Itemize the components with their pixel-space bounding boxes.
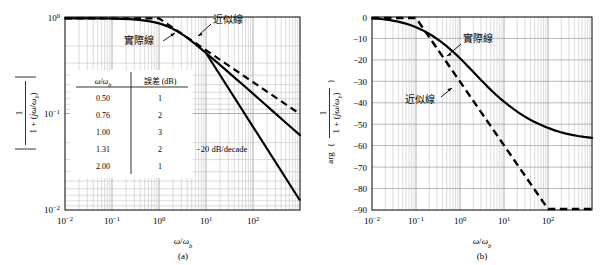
panel-b-annotation-actual: 實際線 xyxy=(463,32,493,44)
table-cell-error-0: 1 xyxy=(158,94,162,103)
panel-b-ytick-1: −10 xyxy=(353,34,368,44)
panel-b-ytick-5: −50 xyxy=(353,120,368,130)
table-header-error: 誤差 (dB) xyxy=(144,76,177,86)
panel-b-caption: (b) xyxy=(477,251,488,261)
panel-b-ytick-4: −40 xyxy=(353,98,368,108)
table-cell-error-4: 1 xyxy=(158,162,162,171)
panel-a-caption: (a) xyxy=(178,251,188,261)
panel-b-ytick-2: −20 xyxy=(353,55,368,65)
panel-b-ytick-6: −60 xyxy=(353,141,368,151)
table-cell-ratio-0: 0.50 xyxy=(96,94,110,103)
table-cell-ratio-3: 1.31 xyxy=(96,145,110,154)
table-cell-error-1: 2 xyxy=(158,111,162,120)
table-cell-ratio-2: 1.00 xyxy=(96,128,110,137)
panel-b-ytick-3: −30 xyxy=(353,77,368,87)
table-cell-error-2: 3 xyxy=(158,128,162,137)
panel-b-annotation-approx: 近似線 xyxy=(405,93,435,105)
panel-b-ytick-8: −80 xyxy=(353,184,368,194)
svg-text:1: 1 xyxy=(14,111,24,116)
table-cell-ratio-4: 2.00 xyxy=(96,162,110,171)
panel-a-annotation-approx: 近似線 xyxy=(213,13,243,25)
panel-b-ytick-9: −90 xyxy=(353,205,368,215)
svg-text:arg: arg xyxy=(325,152,335,164)
bode-plot-figure: ω/ωb 誤差 (dB) 0.50 1 0.76 2 1.00 3 1.31 2… xyxy=(0,0,610,265)
panel-b-ytick-7: −70 xyxy=(353,163,368,173)
svg-text:}: } xyxy=(326,79,336,83)
table-cell-error-3: 2 xyxy=(158,145,162,154)
panel-a-table-backdrop xyxy=(70,70,193,178)
svg-text:1: 1 xyxy=(318,111,328,116)
panel-a-annotation-slope: −20 dB/decade xyxy=(196,144,248,154)
table-cell-ratio-1: 0.76 xyxy=(96,111,110,120)
panel-b-ytick-0: 0 xyxy=(363,13,368,23)
svg-text:{: { xyxy=(326,143,336,147)
panel-a-annotation-actual: 實際線 xyxy=(124,34,154,46)
